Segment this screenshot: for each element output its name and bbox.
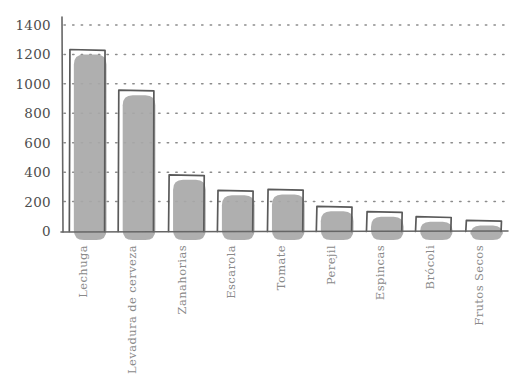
x-axis-category-label: Espincas [373,245,387,300]
x-axis-category-label: Frutos Secos [472,245,486,326]
y-axis-tick-label: 0 [42,223,51,239]
y-axis-tick-label: 600 [24,135,51,151]
x-axis-category-label: Tomate [274,245,288,290]
x-axis-category-label: Brócoli [423,245,437,289]
bar [69,50,106,240]
bar-fill [74,55,107,240]
chart-canvas: 0200400600800100012001400 LechugaLevadur… [0,0,522,379]
y-axis-tick-label: 1200 [15,46,51,62]
x-axis-category-label: Escarola [224,245,238,299]
y-axis-tick-label: 400 [24,164,51,180]
x-axis-category-label: Zanahorias [175,245,189,314]
y-axis-tick-label: 1000 [15,76,51,92]
bar [118,90,155,240]
bar-fill [222,195,255,240]
y-axis-tick-label: 800 [24,105,51,121]
bar-fill [321,211,354,240]
x-axis-category-label: Levadura de cerveza [125,245,139,374]
bar [169,175,206,240]
bar-fill [470,225,503,240]
x-axis-line [61,231,508,232]
y-axis-line [62,17,63,232]
bar-fill [371,217,404,240]
bar-fill [272,194,305,240]
x-axis-category-label: Lechuga [76,245,90,298]
y-axis-tick-label: 200 [24,194,51,210]
x-axis-category-label: Perejil [324,245,338,285]
bar-fill [123,95,156,240]
y-axis-tick-label: 1400 [15,17,51,33]
bar-chart: 0200400600800100012001400 LechugaLevadur… [0,0,522,379]
